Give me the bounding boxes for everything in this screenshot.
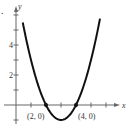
x-axis: x: [4, 101, 126, 110]
y-axis-label: y: [17, 2, 22, 11]
point-label: (2, 0): [27, 112, 45, 121]
parabola-chart: . y 24 x (2, 0)(4, 0): [0, 0, 131, 133]
problem-marker: .: [1, 5, 4, 16]
intercept-point: [44, 103, 48, 107]
y-ticks: 24: [9, 15, 19, 120]
y-tick-label: 4: [9, 41, 13, 50]
y-tick-label: 2: [9, 71, 13, 80]
y-axis: y 24: [9, 2, 22, 124]
x-axis-arrow-icon: [114, 103, 120, 107]
intercept-point: [74, 103, 78, 107]
point-label: (4, 0): [78, 112, 96, 121]
x-axis-label: x: [121, 101, 126, 110]
